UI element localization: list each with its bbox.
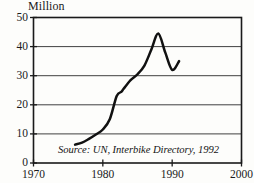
x-tick-label: 2000 <box>222 169 255 181</box>
y-tick-label: 50 <box>4 12 28 24</box>
data-series-line <box>75 33 179 144</box>
y-tick-label: 40 <box>4 41 28 53</box>
x-tick-label: 1970 <box>14 169 54 181</box>
chart-container: Million 01020304050 1970198019902000 Sou… <box>0 0 254 183</box>
y-tick-label: 30 <box>4 70 28 82</box>
gridlines <box>34 47 242 134</box>
y-tick-label: 20 <box>4 99 28 111</box>
x-tick-label: 1990 <box>152 169 192 181</box>
x-tick-label: 1980 <box>83 169 123 181</box>
source-annotation: Source: UN, Interbike Directory, 1992 <box>58 144 219 156</box>
y-tick-label: 10 <box>4 128 28 140</box>
y-tick-label: 0 <box>4 157 28 169</box>
plot-frame <box>34 18 242 164</box>
